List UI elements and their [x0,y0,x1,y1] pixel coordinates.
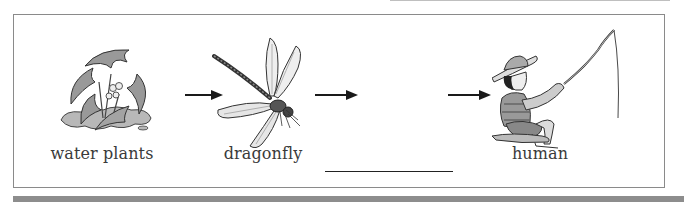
answer-blank-line[interactable] [325,171,453,172]
arrow-icon [315,90,358,100]
fishing-boy-icon [492,26,632,150]
node-label-water-plants: water plants [51,144,154,163]
dragonfly-icon [212,34,312,150]
node-label-human: human [512,144,568,163]
water-plants-icon [55,44,155,136]
bottom-rule [13,196,684,202]
node-label-dragonfly: dragonfly [224,144,303,163]
top-rule [390,0,670,1]
arrow-icon [448,90,491,100]
